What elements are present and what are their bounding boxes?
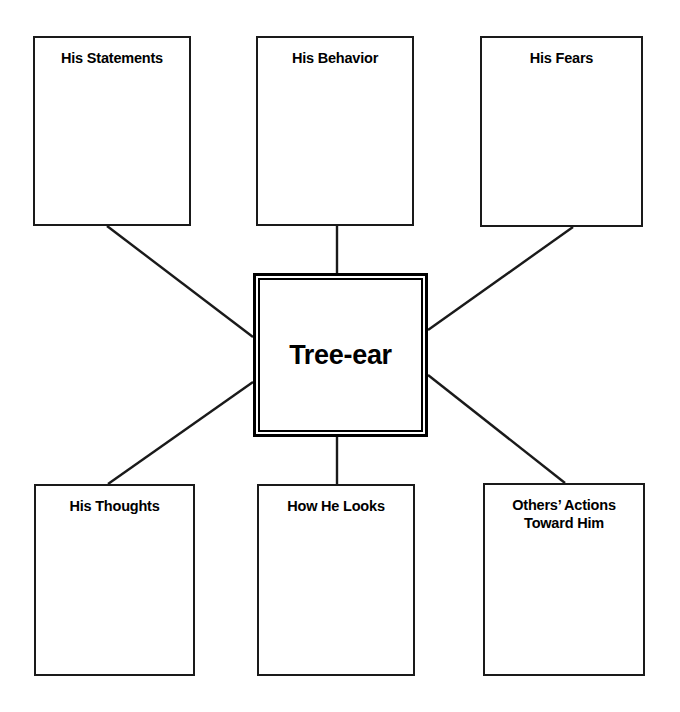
center-node-inner-border: Tree-ear xyxy=(258,278,423,432)
center-node-label: Tree-ear xyxy=(289,340,392,371)
center-node-box[interactable]: Tree-ear xyxy=(253,273,428,437)
node-label-his-thoughts: His Thoughts xyxy=(36,486,193,515)
connector-others-actions xyxy=(428,375,565,483)
node-box-his-fears[interactable]: His Fears xyxy=(480,36,643,227)
node-box-others-actions-toward-him[interactable]: Others’ Actions Toward Him xyxy=(483,483,645,676)
connector-his-statements xyxy=(107,226,253,337)
node-box-how-he-looks[interactable]: How He Looks xyxy=(257,484,415,676)
node-label-his-behavior: His Behavior xyxy=(258,38,412,67)
node-label-others-actions-toward-him: Others’ Actions Toward Him xyxy=(485,485,643,532)
node-label-how-he-looks: How He Looks xyxy=(259,486,413,515)
node-label-his-fears: His Fears xyxy=(482,38,641,67)
graphic-organizer-canvas: His Statements His Behavior His Fears Hi… xyxy=(0,0,680,712)
node-box-his-statements[interactable]: His Statements xyxy=(33,36,191,226)
node-box-his-thoughts[interactable]: His Thoughts xyxy=(34,484,195,676)
node-box-his-behavior[interactable]: His Behavior xyxy=(256,36,414,226)
connector-his-thoughts xyxy=(108,382,253,484)
connector-his-fears xyxy=(428,227,573,330)
node-label-his-statements: His Statements xyxy=(35,38,189,67)
